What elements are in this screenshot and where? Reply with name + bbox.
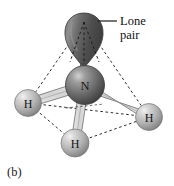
atom-hydrogen-right: H (136, 104, 163, 131)
atom-nitrogen: N (66, 66, 105, 105)
figure-caption: (b) (7, 165, 22, 179)
atom-hydrogen-left: H (15, 90, 42, 117)
hydrogen-bottom-label: H (71, 137, 80, 151)
atom-hydrogen-bottom: H (61, 129, 89, 157)
nitrogen-label: N (80, 79, 89, 93)
molecule-diagram-svg: N H H H Lone pair (b) (0, 0, 174, 186)
lone-pair-label-line1: Lone (120, 14, 146, 28)
hydrogen-right-label: H (145, 111, 154, 125)
molecule-figure: N H H H Lone pair (b) (0, 0, 174, 186)
lone-pair-label-line2: pair (120, 28, 140, 42)
hydrogen-left-label: H (24, 97, 33, 111)
